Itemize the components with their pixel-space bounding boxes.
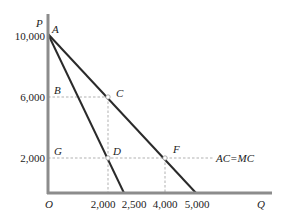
- x-tick-4000: 4,000: [153, 198, 178, 210]
- point-f-marker: [163, 156, 167, 160]
- guide-lines: [48, 97, 214, 193]
- origin-label: O: [45, 198, 53, 210]
- point-d-label: D: [112, 145, 121, 157]
- y-tick-6000: 6,000: [20, 91, 45, 103]
- marginal-revenue-line: [48, 34, 124, 193]
- point-g-label: G: [54, 145, 62, 157]
- ac-mc-label: AC=MC: [215, 152, 255, 164]
- point-c-label: C: [116, 87, 124, 99]
- point-b-label: B: [54, 84, 61, 96]
- x-tick-2000: 2,000: [91, 198, 116, 210]
- chart: P Q O 10,000 6,000 2,000 2,000 2,500 4,0…: [0, 0, 282, 218]
- x-tick-5000: 5,000: [185, 198, 210, 210]
- point-c-marker: [106, 95, 110, 99]
- y-tick-10000: 10,000: [15, 30, 46, 42]
- point-a-label: A: [51, 23, 59, 35]
- demand-line: [48, 34, 196, 193]
- y-tick-2000: 2,000: [20, 152, 45, 164]
- point-f-label: F: [172, 143, 180, 155]
- point-d-marker: [106, 156, 110, 160]
- y-axis-label: P: [35, 17, 43, 29]
- x-tick-2500: 2,500: [122, 198, 147, 210]
- x-axis-label: Q: [257, 198, 265, 210]
